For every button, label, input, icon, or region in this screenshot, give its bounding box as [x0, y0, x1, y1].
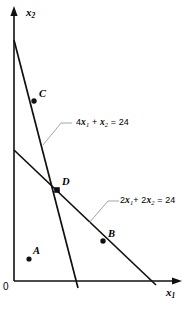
point-label-a: A: [33, 245, 40, 256]
point-marker-d: [54, 187, 60, 193]
origin-label: 0: [3, 281, 9, 292]
equation-label-constraint-2: 2x1+ 2x2 = 24: [120, 195, 175, 205]
linear-programming-figure: x2 x1 0 A B C D 4x1 + x2 = 24 2x1+ 2x2 =…: [0, 0, 194, 312]
axes-group: [10, 6, 182, 285]
y-axis-arrowhead: [10, 6, 17, 16]
eq1-plus: +: [92, 117, 97, 127]
eq2-sub1: 1: [130, 199, 133, 206]
point-label-c: C: [39, 88, 46, 99]
point-label-d: D: [62, 176, 70, 187]
eq2-equals: = 24: [157, 195, 175, 205]
y-axis-label: x2: [26, 6, 35, 18]
point-marker-b: [100, 238, 105, 243]
constraint-line-2: [14, 150, 156, 285]
caption-fragment: [0, 298, 194, 312]
eq1-sub2: 2: [105, 121, 108, 128]
constraint-line-1: [14, 40, 78, 288]
x-axis-arrowhead: [172, 277, 182, 284]
leader-line-constraint-1: [43, 123, 72, 145]
graph-canvas: [0, 0, 194, 312]
x-axis-label: x1: [166, 286, 175, 298]
equation-label-constraint-1: 4x1 + x2 = 24: [76, 117, 129, 127]
eq2-plus: +: [133, 195, 138, 205]
eq1-sub1: 1: [86, 121, 89, 128]
eq2-sub2: 2: [151, 199, 154, 206]
point-marker-a: [26, 256, 31, 261]
leader-line-constraint-2: [89, 201, 119, 223]
point-marker-c: [31, 98, 36, 103]
eq1-equals: = 24: [111, 117, 129, 127]
point-label-b: B: [108, 228, 115, 239]
